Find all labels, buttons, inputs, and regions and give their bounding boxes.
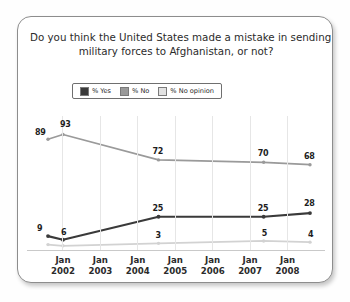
legend-item-2[interactable]: % No opinion <box>158 87 214 96</box>
x-tick-month: Jan <box>265 255 311 266</box>
data-point[interactable] <box>46 138 49 141</box>
legend-swatch-icon <box>120 87 129 96</box>
series-line-1 <box>48 134 310 164</box>
data-label: 6 <box>61 228 66 237</box>
chart-card: Do you think the United States made a mi… <box>17 16 333 283</box>
legend-swatch-icon <box>80 87 89 96</box>
data-point[interactable] <box>46 243 49 246</box>
axis-baseline <box>27 250 325 251</box>
data-point[interactable] <box>308 163 311 166</box>
data-point[interactable] <box>46 234 50 238</box>
x-axis-ticks: Jan2002Jan2003Jan2004Jan2005Jan2006Jan20… <box>27 255 325 283</box>
plot-area <box>27 116 325 251</box>
data-label: 68 <box>304 152 315 161</box>
legend-swatch-icon <box>158 87 167 96</box>
data-point[interactable] <box>157 242 160 245</box>
data-point[interactable] <box>308 211 312 215</box>
data-label: 89 <box>35 128 46 137</box>
legend-label: % No opinion <box>170 87 214 95</box>
gridline-2005 <box>175 116 176 251</box>
data-label: 9 <box>37 224 42 233</box>
data-label: 93 <box>60 120 71 129</box>
x-tick-year: 2008 <box>265 266 311 277</box>
gridline-2006 <box>212 116 213 251</box>
data-point[interactable] <box>262 215 266 219</box>
gridline-2008 <box>287 116 288 251</box>
data-label: 4 <box>308 230 313 239</box>
legend-item-0[interactable]: % Yes <box>80 87 111 96</box>
gridline-2007 <box>250 116 251 251</box>
x-tick-2008: Jan2008 <box>265 255 311 276</box>
chart-title-line-1: Do you think the United States made a mi… <box>30 30 322 44</box>
legend-item-1[interactable]: % No <box>120 87 149 96</box>
data-label: 28 <box>304 199 315 208</box>
legend-label: % No <box>132 87 149 95</box>
data-point[interactable] <box>308 240 311 243</box>
series-lines <box>27 116 325 251</box>
data-label: 5 <box>262 229 267 238</box>
series-line-0 <box>48 213 310 240</box>
screenshot-root: Do you think the United States made a mi… <box>0 0 350 302</box>
data-label: 3 <box>156 231 161 240</box>
data-label: 70 <box>258 149 269 158</box>
data-point[interactable] <box>157 215 161 219</box>
gridline-2003 <box>100 116 101 251</box>
data-label: 25 <box>258 204 269 213</box>
series-line-2 <box>48 241 310 246</box>
gridline-2004 <box>137 116 138 251</box>
data-label: 72 <box>153 147 164 156</box>
data-point[interactable] <box>262 161 265 164</box>
chart-title: Do you think the United States made a mi… <box>30 30 322 58</box>
chart-legend: % Yes% No% No opinion <box>72 83 222 99</box>
data-point[interactable] <box>157 158 160 161</box>
legend-label: % Yes <box>92 87 111 95</box>
data-point[interactable] <box>262 239 265 242</box>
chart-title-line-2: military forces to Afghanistan, or not? <box>30 44 322 58</box>
data-label: 25 <box>153 204 164 213</box>
